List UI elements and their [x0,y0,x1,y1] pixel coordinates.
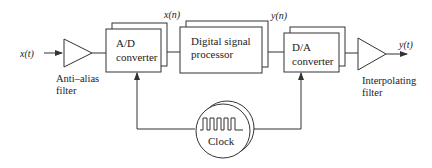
da-label-line2: converter [292,55,334,67]
dsp-label-line1: Digital signal [191,35,251,47]
anti-alias-filter-triangle [64,39,92,67]
anti-alias-caption-line1: Anti–alias [56,73,99,84]
interp-caption-line2: filter [362,87,383,98]
signal-label-yn: y(n) [270,10,288,22]
signal-label-xt: x(t) [19,48,35,60]
ad-label-line2: converter [116,51,158,63]
anti-alias-caption-line2: filter [56,85,77,96]
interp-caption-line1: Interpolating [362,75,417,86]
clock-label: Clock [208,135,235,147]
dsp-label-line2: processor [191,48,233,60]
clock-to-da-line [253,73,301,129]
dsp-block-diagram: x(t) x(n) y(n) y(t) A/D converter Digita… [0,0,432,168]
ad-label-line1: A/D [116,37,135,49]
clock-block [196,101,254,158]
clock-to-ad-line [137,73,195,129]
signal-label-xn: x(n) [163,9,181,21]
signal-label-yt: y(t) [398,39,414,51]
da-label-line1: D/A [292,41,311,53]
dsp-block [180,21,268,73]
interpolating-filter-triangle [358,38,386,70]
